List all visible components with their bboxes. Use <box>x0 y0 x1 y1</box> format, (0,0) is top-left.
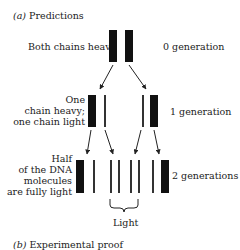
section-b-header: (b) Experimental proof <box>13 239 123 250</box>
arrow-gen1-to-gen2-1 <box>87 130 91 154</box>
arrow-gen0-to-gen1-left <box>100 65 113 89</box>
arrow-gen1-to-gen2-3 <box>135 130 141 154</box>
arrow-gen1-to-gen2-4 <box>154 130 159 154</box>
light-brace <box>110 199 138 212</box>
section-b-label: (b) <box>13 239 27 250</box>
section-b-title: Experimental proof <box>30 239 123 250</box>
arrow-gen0-to-gen1-right <box>129 65 146 89</box>
arrow-gen1-to-gen2-2 <box>105 130 113 154</box>
brace-label: Light <box>113 217 138 228</box>
